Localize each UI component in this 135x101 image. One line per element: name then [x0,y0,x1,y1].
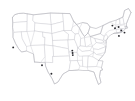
map-data-point-marker[interactable]: Arizona / New Mexico [41,64,43,66]
state-oregon [13,22,28,33]
state-boundaries-layer [13,9,132,85]
state-minnesota [63,13,74,30]
us-map-svg: California Bay AreaArizona / New MexicoS… [0,0,135,101]
map-data-point-marker[interactable]: Massachusetts [118,26,120,28]
map-data-point-marker[interactable]: Missouri / Arkansas [72,52,74,54]
map-data-point-marker[interactable]: California Bay Area [12,46,14,48]
map-data-point-marker[interactable]: New York [114,27,116,29]
state-new-york [101,22,117,36]
map-data-point-marker[interactable]: Connecticut / Rhode Island [120,29,122,31]
map-data-point-marker[interactable]: Missouri [71,50,73,52]
map-data-point-marker[interactable]: Arkansas [72,54,74,56]
us-map-figure: California Bay AreaArizona / New MexicoS… [0,0,135,101]
state-delaware [104,41,106,44]
map-data-point-marker[interactable]: New Jersey [118,35,120,37]
map-data-point-marker[interactable]: Upstate New York [111,25,113,27]
map-data-point-marker[interactable]: Southern New England [124,32,126,34]
map-data-point-marker[interactable]: South Texas [50,73,52,75]
